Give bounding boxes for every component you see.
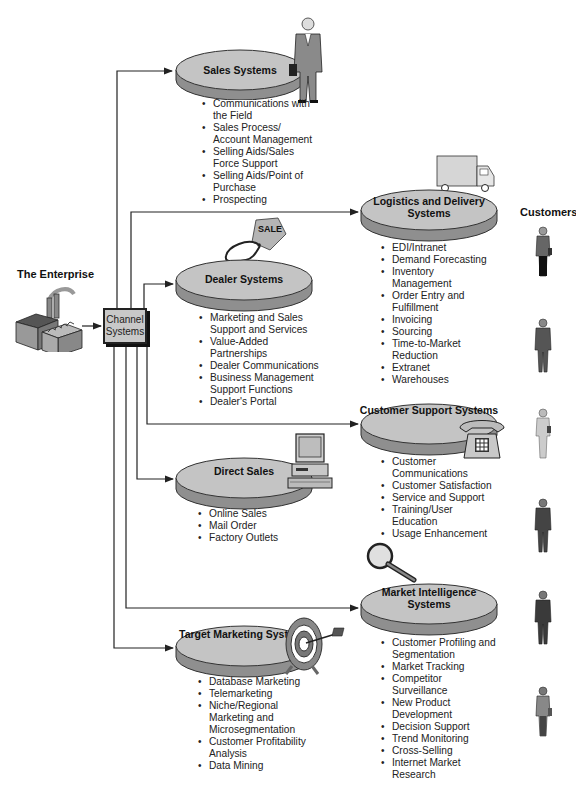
computer-icon — [286, 432, 336, 492]
list-item: Service and Support — [381, 492, 496, 504]
customers-label: Customers — [520, 206, 576, 218]
list-item: Market Tracking — [381, 661, 496, 673]
factory-icon — [14, 282, 84, 352]
list-item: Invoicing — [381, 314, 496, 326]
telephone-icon — [458, 418, 506, 460]
sales-systems-node: Sales Systems — [174, 40, 306, 100]
list-item: Inventory Management — [381, 266, 496, 290]
direct-sales-list: Online Sales Mail Order Factory Outlets — [198, 508, 313, 544]
dealer-systems-node: Dealer Systems — [174, 252, 314, 314]
list-item: Marketing and Sales Support and Services — [199, 312, 324, 336]
logistics-systems-node: Logistics and Delivery Systems — [359, 180, 499, 242]
list-item: Trend Monitoring — [381, 733, 496, 745]
channel-systems-box: Channel Systems — [103, 308, 147, 344]
list-item: Extranet — [381, 362, 496, 374]
list-item: Selling Aids/Sales Force Support — [202, 146, 317, 170]
market-intelligence-systems-list: Customer Profiling and Segmentation Mark… — [381, 637, 496, 781]
customer-support-systems-title: Customer Support Systems — [359, 404, 499, 416]
list-item: Telemarketing — [198, 688, 323, 700]
logistics-systems-list: EDI/Intranet Demand Forecasting Inventor… — [381, 242, 496, 386]
list-item: Factory Outlets — [198, 532, 313, 544]
list-item: Communications with the Field — [202, 98, 317, 122]
svg-text:SALE: SALE — [258, 224, 282, 234]
sales-systems-title: Sales Systems — [174, 64, 306, 76]
target-arrow-icon — [282, 614, 348, 676]
dealer-systems-list: Marketing and Sales Support and Services… — [199, 312, 324, 408]
list-item: New Product Development — [381, 697, 496, 721]
channel-systems-label: Channel Systems — [105, 314, 145, 338]
list-item: EDI/Intranet — [381, 242, 496, 254]
list-item: Dealer's Portal — [199, 396, 324, 408]
sales-systems-list: Communications with the Field Sales Proc… — [202, 98, 317, 206]
logistics-systems-title: Logistics and Delivery Systems — [359, 195, 499, 219]
list-item: Internet Market Research — [381, 757, 496, 781]
list-item: Warehouses — [381, 374, 496, 386]
enterprise-label: The Enterprise — [17, 268, 94, 280]
list-item: Order Entry and Fulfillment — [381, 290, 496, 314]
list-item: Online Sales — [198, 508, 313, 520]
list-item: Business Management Support Functions — [199, 372, 324, 396]
list-item: Competitor Surveillance — [381, 673, 496, 697]
list-item: Training/User Education — [381, 504, 496, 528]
salesman-icon — [288, 14, 328, 106]
target-marketing-systems-list: Database Marketing Telemarketing Niche/R… — [198, 676, 323, 772]
list-item: Niche/Regional Marketing and Microsegmen… — [198, 700, 323, 736]
market-intelligence-systems-title: Market Intelligence Systems — [359, 586, 499, 610]
list-item: Decision Support — [381, 721, 496, 733]
list-item: Selling Aids/Point of Purchase — [202, 170, 317, 194]
list-item: Sourcing — [381, 326, 496, 338]
list-item: Data Mining — [198, 760, 323, 772]
customer-support-systems-list: Customer Communications Customer Satisfa… — [381, 456, 496, 540]
list-item: Sales Process/ Account Management — [202, 122, 317, 146]
list-item: Dealer Communications — [199, 360, 324, 372]
customer-man-icon — [533, 318, 553, 374]
dealer-systems-title: Dealer Systems — [174, 273, 314, 285]
customer-woman-icon — [533, 226, 553, 282]
list-item: Time-to-Market Reduction — [381, 338, 496, 362]
list-item: Customer Profitability Analysis — [198, 736, 323, 760]
list-item: Cross-Selling — [381, 745, 496, 757]
list-item: Database Marketing — [198, 676, 323, 688]
list-item: Prospecting — [202, 194, 317, 206]
channel-systems-diagram: The Enterprise Channel Systems Sales Sys… — [0, 0, 576, 785]
list-item: Customer Profiling and Segmentation — [381, 637, 496, 661]
market-intelligence-systems-node: Market Intelligence Systems — [359, 578, 499, 640]
list-item: Customer Satisfaction — [381, 480, 496, 492]
customer-woman-icon — [533, 408, 553, 464]
list-item: Demand Forecasting — [381, 254, 496, 266]
list-item: Mail Order — [198, 520, 313, 532]
list-item: Value-Added Partnerships — [199, 336, 324, 360]
list-item: Usage Enhancement — [381, 528, 496, 540]
customer-man-icon — [533, 498, 553, 554]
list-item: Customer Communications — [381, 456, 496, 480]
customer-man-icon — [533, 590, 553, 646]
customer-woman-icon — [533, 686, 553, 742]
